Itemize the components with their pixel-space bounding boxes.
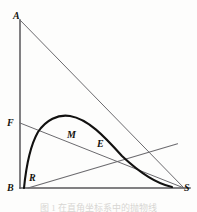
point-label-s: S <box>184 183 190 193</box>
figure-caption: 图 1 在直角坐标系中的抛物线 <box>0 203 197 212</box>
point-label-b: B <box>7 183 14 193</box>
point-label-r: R <box>29 173 36 183</box>
point-label-e: E <box>97 139 104 149</box>
geometry-figure: A F B R M E S 图 1 在直角坐标系中的抛物线 <box>0 0 197 212</box>
point-label-f: F <box>7 118 14 128</box>
point-label-a: A <box>13 11 20 21</box>
line-as <box>20 20 184 188</box>
point-label-m: M <box>67 130 76 140</box>
line-fs <box>20 123 184 188</box>
